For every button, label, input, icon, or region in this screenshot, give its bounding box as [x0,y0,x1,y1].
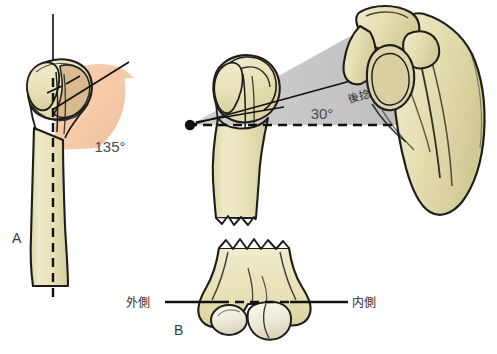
panel-a-humeral-shaft [31,128,68,286]
panel-a-letter: A [12,230,22,246]
panel-b-break-lower-edge [219,239,289,249]
panel-a-group: 135° A [12,14,134,298]
medial-label: 内側 [352,296,376,310]
lateral-label: 外側 [126,296,150,310]
rotation-center-dot [185,120,195,130]
anatomy-figure-svg: 135° A [0,0,497,354]
panel-b-trochlea [248,302,291,340]
panel-b-humeral-shaft-upper [213,118,268,218]
anatomy-figure-root: 135° A [0,0,497,354]
panel-b-letter: B [174,322,184,338]
glenoid-fossa-rim [372,54,409,106]
retroversion-angle-label: 30° [311,105,334,122]
panel-a-angle-label: 135° [94,138,125,155]
